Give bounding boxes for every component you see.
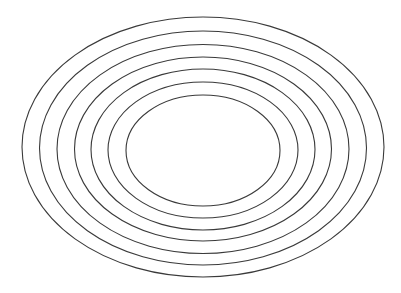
concentric-ellipses-diagram [0,0,401,293]
background [0,0,401,293]
